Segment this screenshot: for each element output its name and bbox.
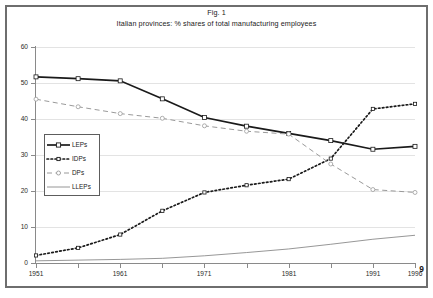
series-marker-leps [76, 77, 80, 81]
legend-label: DPs [72, 166, 84, 180]
series-marker-dps [118, 112, 122, 116]
series-marker-dps [413, 190, 417, 194]
series-line-lleps [36, 235, 415, 261]
series-marker-dps [76, 105, 80, 109]
legend-symbol-leps-icon [45, 138, 72, 152]
figure-page: Fig. 1 Italian provinces: % shares of to… [0, 0, 433, 298]
series-marker-idps [77, 246, 80, 249]
legend-symbol-lleps-icon [45, 180, 72, 194]
series-marker-dps [329, 162, 333, 166]
series-marker-idps [245, 184, 248, 187]
legend-symbol-dps-icon [45, 166, 72, 180]
series-marker-idps [161, 209, 164, 212]
page-number: 9 [419, 264, 424, 274]
series-marker-dps [245, 129, 249, 133]
series-marker-idps [287, 178, 290, 181]
series-marker-dps [202, 124, 206, 128]
series-marker-idps [34, 254, 37, 257]
series-marker-leps [245, 124, 249, 128]
series-marker-idps [203, 191, 206, 194]
legend-label: IDPs [72, 152, 86, 166]
series-marker-leps [202, 116, 206, 120]
legend-item-lleps[interactable]: LLEPs [45, 180, 99, 194]
series-marker-dps [160, 116, 164, 120]
legend-symbol-idps-icon [45, 152, 72, 166]
legend-label: LLEPs [72, 180, 91, 194]
series-marker-leps [118, 79, 122, 83]
series-marker-leps [329, 139, 333, 143]
series-marker-dps [34, 97, 38, 101]
series-marker-idps [119, 233, 122, 236]
legend-item-dps[interactable]: DPs [45, 166, 99, 180]
series-marker-leps [34, 75, 38, 79]
chart-legend: LEPsIDPsDPsLLEPs [44, 134, 100, 196]
series-marker-idps [371, 107, 374, 110]
series-marker-idps [413, 102, 416, 105]
series-marker-idps [329, 157, 332, 160]
series-marker-leps [371, 147, 375, 151]
series-marker-leps [413, 144, 417, 148]
legend-item-leps[interactable]: LEPs [45, 138, 99, 152]
series-marker-dps [371, 188, 375, 192]
legend-label: LEPs [72, 138, 87, 152]
series-marker-dps [287, 132, 291, 136]
legend-item-idps[interactable]: IDPs [45, 152, 99, 166]
series-marker-leps [160, 97, 164, 101]
